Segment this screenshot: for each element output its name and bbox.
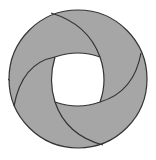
diagram-canvas bbox=[0, 0, 156, 160]
annulus-diagram bbox=[0, 0, 156, 160]
ring-shape bbox=[9, 10, 147, 148]
